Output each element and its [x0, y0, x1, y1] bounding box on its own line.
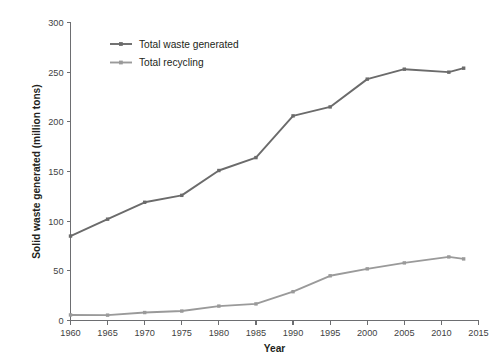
data-point	[403, 261, 406, 264]
legend-swatch-marker	[119, 42, 123, 46]
data-point	[462, 257, 465, 260]
legend-swatch-marker	[119, 61, 123, 65]
chart-container: 050100150200250300 196019651970197519801…	[0, 0, 504, 363]
legend-item-label: Total recycling	[139, 57, 204, 68]
data-point	[328, 105, 331, 108]
x-axis-tick-label: 1980	[209, 328, 229, 338]
data-point	[143, 201, 146, 204]
y-axis-title: Solid waste generated (million tons)	[31, 84, 42, 258]
legend-item-label: Total waste generated	[139, 39, 239, 50]
data-point	[106, 313, 109, 316]
data-point	[447, 70, 450, 73]
data-point	[291, 290, 294, 293]
data-point	[217, 304, 220, 307]
data-point	[180, 194, 183, 197]
x-axis-tick-label: 2005	[394, 328, 414, 338]
data-point	[328, 274, 331, 277]
data-point	[143, 311, 146, 314]
data-point	[366, 267, 369, 270]
x-axis-tick-label: 1990	[283, 328, 303, 338]
data-point	[462, 66, 465, 69]
y-axis-tick-label: 0	[58, 316, 63, 326]
data-point	[403, 67, 406, 70]
y-axis-tick-label: 100	[48, 217, 63, 227]
x-axis-tick-label: 2000	[357, 328, 377, 338]
data-point	[106, 217, 109, 220]
data-point	[69, 313, 72, 316]
plot-background	[0, 0, 504, 363]
x-axis-tick-label: 2015	[468, 328, 488, 338]
data-point	[254, 302, 257, 305]
x-axis-tick-label: 1960	[60, 328, 80, 338]
data-point	[254, 156, 257, 159]
data-point	[447, 255, 450, 258]
x-axis-tick-label: 1975	[172, 328, 192, 338]
y-axis-tick-label: 200	[48, 117, 63, 127]
y-axis-tick-label: 50	[53, 266, 63, 276]
y-axis-tick-label: 150	[48, 167, 63, 177]
x-axis-tick-label: 1985	[246, 328, 266, 338]
y-axis-tick-label: 300	[48, 18, 63, 28]
x-axis-tick-label: 1995	[320, 328, 340, 338]
x-axis-tick-label: 2010	[431, 328, 451, 338]
data-point	[69, 234, 72, 237]
line-chart: 050100150200250300 196019651970197519801…	[0, 0, 504, 363]
y-axis-tick-label: 250	[48, 68, 63, 78]
data-point	[366, 77, 369, 80]
x-axis-tick-label: 1970	[134, 328, 154, 338]
data-point	[291, 114, 294, 117]
x-axis-title: Year	[264, 343, 286, 354]
data-point	[217, 169, 220, 172]
x-axis-tick-label: 1965	[97, 328, 117, 338]
data-point	[180, 309, 183, 312]
